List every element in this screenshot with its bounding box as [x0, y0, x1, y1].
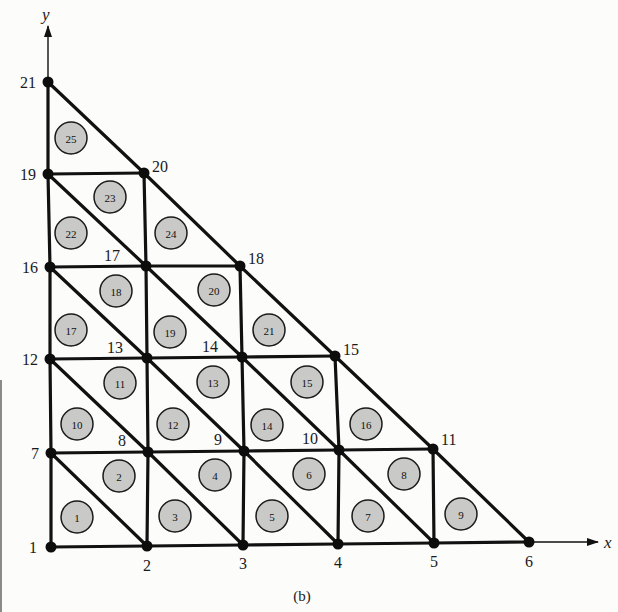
node-dot: [334, 445, 345, 456]
mesh-edge: [339, 449, 433, 450]
node-number: 7: [31, 445, 39, 462]
node-dot: [43, 169, 54, 180]
mesh-edge: [48, 174, 50, 267]
element-number: 12: [168, 419, 179, 431]
node-number: 10: [302, 430, 318, 447]
element-number: 19: [165, 327, 177, 339]
element-number: 17: [66, 325, 78, 337]
mesh-edge: [242, 357, 244, 451]
node-dot: [330, 351, 341, 362]
element-number: 25: [66, 133, 78, 145]
node-dot: [46, 542, 57, 553]
element-marker: 19: [154, 316, 186, 348]
mesh-edge: [243, 451, 244, 545]
node-number: 6: [525, 553, 533, 570]
node-number: 14: [202, 338, 218, 355]
node-dot: [139, 168, 150, 179]
element-number: 9: [458, 509, 464, 521]
element-marker: 12: [157, 408, 189, 440]
element-number: 21: [264, 325, 275, 337]
element-marker: 21: [253, 314, 285, 346]
mesh-edge: [51, 452, 148, 453]
element-number: 22: [66, 228, 77, 240]
mesh-edge: [144, 173, 146, 266]
element-number: 13: [208, 377, 220, 389]
node-dot: [429, 538, 440, 549]
element-number: 11: [115, 378, 126, 390]
mesh-edge: [144, 173, 240, 266]
node-dot: [142, 353, 153, 364]
mesh-edge: [48, 173, 144, 174]
mesh-edge: [433, 449, 529, 542]
element-number: 4: [212, 470, 218, 482]
mesh-edge: [240, 266, 242, 357]
node-number: 3: [239, 555, 247, 572]
element-number: 1: [74, 512, 80, 524]
node-number: 16: [22, 259, 38, 276]
node-number: 21: [20, 74, 36, 91]
node-dot: [239, 446, 250, 457]
node-number: 8: [118, 432, 126, 449]
mesh-edge: [338, 450, 339, 544]
mesh-edge: [147, 545, 243, 546]
element-marker: 16: [350, 408, 382, 440]
mesh-edge: [50, 266, 146, 267]
mesh-edge: [51, 546, 147, 547]
node-number: 11: [441, 431, 456, 448]
node-number: 15: [343, 341, 359, 358]
element-marker: 22: [55, 217, 87, 249]
node-number: 18: [248, 250, 264, 267]
mesh-edge: [50, 358, 147, 359]
node-dot: [45, 262, 56, 273]
mesh-edge: [147, 358, 148, 452]
element-number: 10: [72, 419, 84, 431]
node-dot: [43, 77, 54, 88]
element-marker: 25: [55, 122, 87, 154]
element-number: 6: [306, 469, 312, 481]
element-marker: 24: [155, 217, 187, 249]
element-marker: 9: [445, 498, 477, 530]
element-number: 23: [105, 192, 117, 204]
element-number: 3: [172, 511, 178, 523]
element-marker: 15: [291, 366, 323, 398]
element-marker: 1: [61, 501, 93, 533]
mesh-edge: [244, 450, 339, 451]
figure-caption: (b): [293, 588, 311, 605]
node-dot: [333, 539, 344, 550]
node-number: 20: [152, 158, 168, 175]
element-marker: 14: [251, 409, 283, 441]
element-marker: 3: [159, 500, 191, 532]
element-marker: 23: [94, 181, 126, 213]
node-dot: [524, 537, 535, 548]
mesh-edge: [147, 358, 244, 451]
element-number: 20: [209, 285, 221, 297]
element-number: 16: [361, 419, 373, 431]
element-number: 14: [262, 420, 274, 432]
element-marker: 20: [198, 274, 230, 306]
node-number: 19: [20, 166, 36, 183]
node-number: 12: [22, 351, 38, 368]
element-number: 15: [302, 377, 314, 389]
node-dot: [46, 448, 57, 459]
node-number: 5: [430, 553, 438, 570]
mesh-edge: [433, 449, 434, 543]
mesh-edge: [338, 543, 434, 544]
mesh-edge: [243, 544, 338, 545]
mesh-edge: [50, 359, 51, 453]
node-number: 9: [214, 431, 222, 448]
mesh-edge: [339, 450, 434, 543]
mesh-figure: x y 123456789101112131415161718192021222…: [0, 0, 618, 612]
mesh-edge: [147, 452, 148, 546]
mesh-edge: [434, 542, 529, 543]
node-dot: [142, 541, 153, 552]
element-marker: 4: [199, 459, 231, 491]
mesh-edge: [146, 266, 147, 358]
element-marker: 13: [197, 366, 229, 398]
element-marker: 8: [388, 458, 420, 490]
node-number: 17: [104, 247, 120, 264]
mesh-edge: [148, 451, 244, 452]
element-number: 5: [269, 511, 275, 523]
mesh-edge: [335, 356, 433, 449]
node-dot: [235, 261, 246, 272]
y-axis-label: y: [40, 5, 50, 24]
